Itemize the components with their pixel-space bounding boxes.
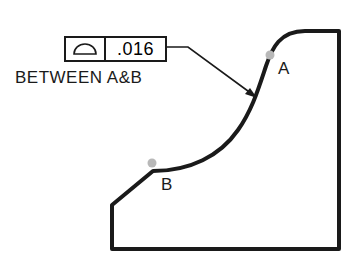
point-a-marker (266, 51, 275, 60)
leader-line (166, 47, 252, 94)
point-b-label: B (161, 175, 172, 195)
note-text: BETWEEN A&B (15, 68, 142, 88)
profile-of-a-line-icon (66, 38, 106, 60)
tolerance-value: .016 (106, 38, 165, 60)
part-drawing (0, 0, 362, 260)
point-a-label: A (278, 59, 289, 79)
part-outline (112, 31, 339, 249)
feature-control-frame: .016 (64, 36, 167, 62)
point-b-marker (148, 159, 157, 168)
